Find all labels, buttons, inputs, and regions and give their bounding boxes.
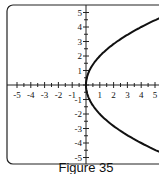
svg-text:-5: -5 [13, 90, 21, 100]
svg-text:1: 1 [78, 66, 83, 76]
svg-text:4: 4 [139, 90, 144, 100]
svg-text:2: 2 [111, 90, 116, 100]
figure-caption: Figure 35 [0, 160, 159, 174]
svg-text:3: 3 [125, 90, 130, 100]
svg-text:-4: -4 [75, 138, 83, 148]
svg-text:3: 3 [78, 37, 83, 47]
svg-text:-3: -3 [75, 124, 83, 134]
svg-text:-2: -2 [55, 90, 63, 100]
svg-text:-4: -4 [27, 90, 35, 100]
svg-text:5: 5 [153, 90, 158, 100]
svg-text:1: 1 [98, 90, 103, 100]
svg-text:5: 5 [78, 8, 83, 18]
chart: -5-4-3-2-11234554321-1-2-3-4-5 [0, 0, 159, 174]
svg-text:2: 2 [78, 51, 83, 61]
svg-text:-3: -3 [41, 90, 49, 100]
svg-text:-2: -2 [75, 109, 83, 119]
svg-text:4: 4 [78, 22, 83, 32]
svg-text:-1: -1 [75, 95, 83, 105]
